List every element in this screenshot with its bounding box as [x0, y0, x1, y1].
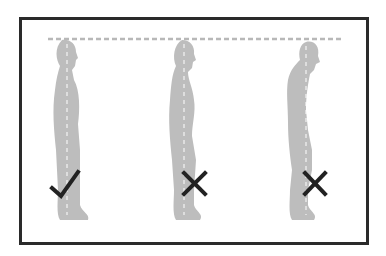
posture-diagram [0, 0, 386, 256]
